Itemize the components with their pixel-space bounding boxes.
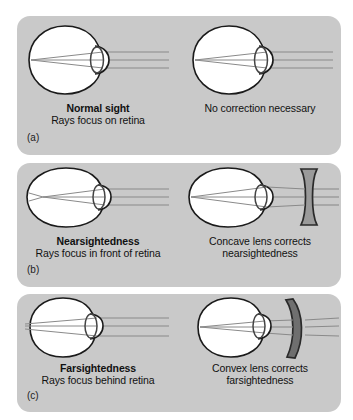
panel-letter-b: (b): [27, 264, 39, 275]
nearsightedness-diagram: [17, 163, 341, 239]
normal-eye-right: [193, 26, 333, 94]
vision-correction-figure: Normal sight Rays focus on retina No cor…: [0, 0, 353, 420]
convex-lens: [286, 299, 302, 358]
refracted-rays-left: [25, 318, 97, 336]
panel-c-right-caption: Convex lens corrects farsightedness: [179, 362, 341, 387]
crystalline-lens-right: [255, 185, 267, 209]
crystalline-lens-left: [93, 185, 105, 209]
panel-c-captions: Farsightedness Rays focus behind retina …: [17, 362, 341, 387]
panel-b-right-caption: Concave lens corrects nearsightedness: [179, 235, 341, 260]
cornea-left: [95, 46, 109, 74]
panel-letter-a: (a): [27, 132, 39, 143]
incoming-rays-left: [97, 318, 169, 336]
elongated-eye-left: [27, 168, 169, 227]
incoming-rays-right: [313, 189, 339, 205]
shortened-eye-left: [25, 298, 169, 357]
no-correction-text: No correction necessary: [179, 102, 341, 114]
cornea-right: [258, 314, 271, 339]
incoming-rays-right: [267, 52, 333, 68]
crystalline-lens-left: [91, 47, 104, 73]
farsightedness-title: Farsightedness: [17, 362, 179, 374]
incoming-rays-right: [305, 318, 339, 336]
incoming-rays-left: [105, 189, 169, 205]
eyeball-outline-right: [198, 298, 263, 357]
normal-eye-left: [29, 26, 169, 94]
refracted-rays-right: [191, 187, 267, 207]
panel-a-captions: Normal sight Rays focus on retina No cor…: [17, 102, 341, 127]
refracted-rays-right: [195, 52, 267, 68]
diverged-rays-right: [267, 187, 305, 207]
eyeball-outline-left: [30, 298, 95, 357]
concave-lens: [301, 169, 317, 225]
refracted-rays-left: [31, 52, 103, 68]
eyeball-outline-right: [189, 168, 265, 227]
panel-b-captions: Nearsightedness Rays focus in front of r…: [17, 235, 341, 260]
panel-farsightedness: Farsightedness Rays focus behind retina …: [17, 294, 341, 412]
panel-b-left-caption: Nearsightedness Rays focus in front of r…: [17, 235, 179, 260]
panel-letter-c: (c): [27, 390, 39, 401]
panel-c-left-caption: Farsightedness Rays focus behind retina: [17, 362, 179, 387]
eyeball-outline-left: [27, 168, 103, 227]
panel-a-left-caption: Normal sight Rays focus on retina: [17, 102, 179, 127]
crystalline-lens-right: [255, 47, 268, 73]
converged-rays-right: [265, 320, 293, 335]
normal-sight-subtitle: Rays focus on retina: [17, 114, 179, 126]
convex-lens-text-line1: Convex lens corrects: [179, 362, 341, 374]
farsightedness-subtitle: Rays focus behind retina: [17, 374, 179, 386]
panel-normal-sight: Normal sight Rays focus on retina No cor…: [17, 16, 341, 155]
concave-lens-text-line1: Concave lens corrects: [179, 235, 341, 247]
crystalline-lens-right: [253, 314, 265, 338]
crystalline-lens-left: [85, 314, 97, 338]
cornea-left: [90, 314, 103, 339]
panel-a-right-caption: No correction necessary: [179, 102, 341, 127]
shortened-eye-right: [198, 298, 339, 358]
concave-lens-text-line2: nearsightedness: [179, 247, 341, 259]
refracted-rays-left: [29, 189, 105, 205]
cornea-right: [259, 46, 273, 74]
eyeball-outline-right: [193, 26, 265, 94]
normal-sight-title: Normal sight: [17, 102, 179, 114]
nearsightedness-title: Nearsightedness: [17, 235, 179, 247]
cornea-right: [260, 185, 273, 210]
elongated-eye-right: [189, 168, 339, 227]
convex-lens-text-line2: farsightedness: [179, 374, 341, 386]
cornea-left: [98, 185, 111, 210]
farsightedness-diagram: [17, 294, 341, 366]
refracted-rays-right: [200, 321, 265, 333]
panel-nearsightedness: Nearsightedness Rays focus in front of r…: [17, 163, 341, 287]
nearsightedness-subtitle: Rays focus in front of retina: [17, 247, 179, 259]
normal-sight-diagram: [17, 16, 341, 106]
incoming-rays-left: [103, 52, 169, 68]
eyeball-outline-left: [29, 26, 101, 94]
